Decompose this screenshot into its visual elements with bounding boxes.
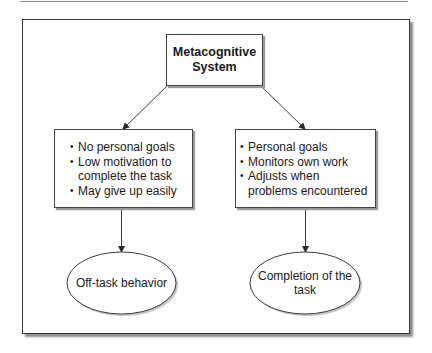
task-completion-label: Completion of the task: [250, 252, 360, 314]
no-goals-node: No personal goals Low motivation to comp…: [54, 129, 193, 208]
list-item: Adjusts when problems encountered: [240, 169, 367, 198]
right-bullet-list: Personal goals Monitors own work Adjusts…: [240, 140, 367, 198]
list-item: Low motivation to complete the task: [70, 155, 177, 184]
left-bullet-list: No personal goals Low motivation to comp…: [70, 140, 177, 198]
top-rule-divider: [20, 1, 408, 2]
metacognitive-system-node: Metacognitive System: [166, 34, 263, 86]
list-item: No personal goals: [70, 140, 177, 155]
list-item: Monitors own work: [240, 155, 367, 170]
list-item: May give up easily: [70, 184, 177, 199]
personal-goals-node: Personal goals Monitors own work Adjusts…: [235, 129, 376, 208]
off-task-behavior-label: Off-task behavior: [67, 252, 176, 314]
list-item: Personal goals: [240, 140, 367, 155]
node-title: Metacognitive System: [173, 45, 256, 75]
